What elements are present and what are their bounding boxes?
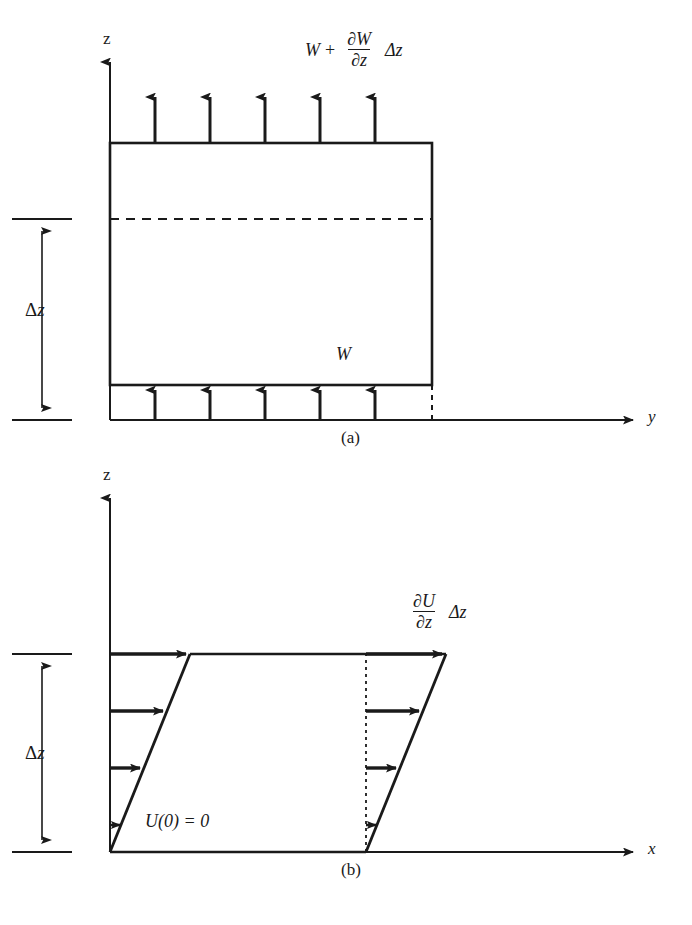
- math-expression: ∂U ∂z Δz: [406, 592, 466, 631]
- math-expression: W + ∂W ∂z Δz: [305, 30, 403, 69]
- expr-trailing: Δz: [449, 603, 467, 621]
- panel-b-graphics: [12, 498, 633, 852]
- panel-a-delta-z-label: Δz: [25, 300, 45, 319]
- expr-trailing: Δz: [385, 41, 403, 59]
- figure-canvas: [0, 0, 692, 925]
- expr-operator: +: [325, 41, 335, 59]
- delta-symbol: Δ: [25, 742, 37, 763]
- delta-variable: z: [37, 742, 44, 763]
- top-stress-arrows: [155, 97, 375, 143]
- right-slant-edge-b: [366, 654, 446, 852]
- panel-a-top-stress-expression: W + ∂W ∂z Δz: [305, 30, 403, 69]
- panel-b-no-slip-label: U(0) = 0: [145, 812, 209, 830]
- panel-b-z-axis-label: z: [103, 466, 111, 483]
- delta-variable: z: [37, 299, 44, 320]
- expr-fraction: ∂U ∂z: [410, 592, 438, 631]
- left-velocity-arrows: [110, 654, 186, 825]
- panel-a-caption: (a): [341, 429, 360, 446]
- panel-a-bottom-stress-label: W: [336, 345, 351, 363]
- expr-denominator: ∂z: [413, 611, 435, 631]
- panel-b-shear-expression: ∂U ∂z Δz: [406, 592, 466, 631]
- expr-numerator: ∂W: [344, 30, 374, 49]
- expr-base: W: [305, 41, 320, 59]
- expr-denominator: ∂z: [348, 49, 370, 69]
- panel-a-y-axis-label: y: [648, 408, 656, 425]
- panel-b-caption: (b): [341, 861, 361, 878]
- expr-numerator: ∂U: [410, 592, 438, 611]
- panel-a-graphics: [12, 62, 633, 420]
- panel-a-z-axis-label: z: [103, 30, 111, 47]
- figure-root: z y W + ∂W ∂z Δz W Δz (a) z x ∂U ∂z Δz: [0, 0, 692, 925]
- element-box-a: [110, 143, 432, 385]
- bottom-stress-arrows: [155, 390, 375, 419]
- delta-symbol: Δ: [25, 299, 37, 320]
- panel-b-x-axis-label: x: [648, 840, 656, 857]
- expr-fraction: ∂W ∂z: [344, 30, 374, 69]
- right-velocity-arrows: [366, 654, 442, 825]
- control-volume-rectangle: [110, 143, 432, 385]
- panel-b-delta-z-label: Δz: [25, 743, 45, 762]
